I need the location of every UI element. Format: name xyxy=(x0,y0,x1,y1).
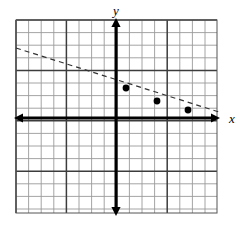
figure-background xyxy=(0,0,245,230)
graph-canvas: x y xyxy=(0,0,245,230)
data-point-2 xyxy=(154,98,161,105)
x-axis-label: x xyxy=(228,111,235,126)
y-axis-label: y xyxy=(111,3,119,18)
coordinate-plane-figure: x y xyxy=(0,0,245,230)
data-point-1 xyxy=(123,85,130,92)
data-point-3 xyxy=(185,107,192,114)
